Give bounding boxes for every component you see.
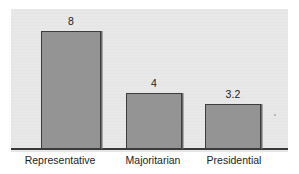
chart-plot-area: 8 4 3.2	[11, 9, 288, 149]
bar-group-representative: 8	[41, 9, 101, 149]
bar-value-label-presidential: 3.2	[205, 89, 261, 100]
bar-representative	[41, 31, 101, 149]
bar-group-presidential: 3.2	[205, 9, 261, 149]
bar-presidential	[205, 104, 261, 149]
bar-value-label-majoritarian: 4	[126, 78, 182, 89]
bar-chart-figure: 8 4 3.2 Representative Majoritarian Pres…	[0, 0, 299, 174]
x-tick-label-presidential: Presidential	[193, 154, 275, 166]
x-tick-label-majoritarian: Majoritarian	[112, 154, 194, 166]
bar-value-label-representative: 8	[41, 16, 101, 27]
bar-majoritarian	[126, 93, 182, 149]
bar-group-majoritarian: 4	[126, 9, 182, 149]
x-tick-label-representative: Representative	[11, 154, 109, 166]
